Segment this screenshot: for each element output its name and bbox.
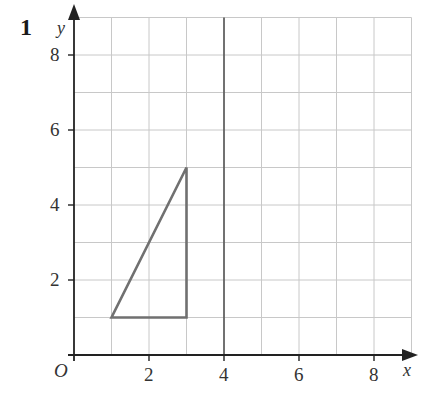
x-tick-label: 8 [369,364,379,386]
coordinate-grid [0,0,428,393]
origin-label: O [54,360,68,382]
x-axis-label: x [403,360,411,381]
y-tick-label: 8 [50,44,60,66]
x-tick-label: 4 [219,364,229,386]
x-tick-label: 2 [144,364,154,386]
y-tick-label: 2 [50,269,60,291]
grid-lines [74,18,412,356]
y-axis-label: y [57,18,65,39]
axes [68,4,418,361]
y-tick-label: 4 [50,194,60,216]
x-tick-label: 6 [294,364,304,386]
y-tick-label: 6 [50,119,60,141]
